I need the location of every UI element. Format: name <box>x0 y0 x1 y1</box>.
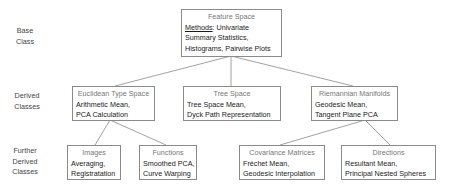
node-line: Arithmetic Mean, <box>76 100 151 111</box>
node-line: Dyck Path Representation <box>187 110 277 121</box>
node-functions: Functions Smoothed PCA, Curve Warping <box>139 145 197 180</box>
node-line: Averaging, <box>71 159 117 170</box>
node-line: Smoothed PCA, <box>143 159 193 170</box>
node-line: : Univariate <box>213 23 249 32</box>
node-title: Feature Space <box>185 12 278 23</box>
node-feature-space: Feature Space Methods: Univariate Summar… <box>181 9 282 57</box>
node-tree-space: Tree Space Tree Space Mean, Dyck Path Re… <box>183 86 281 121</box>
node-covariance-matrices: Covariance Matrices Fréchet Mean, Geodes… <box>239 145 325 180</box>
row-label-line: Further <box>2 146 48 157</box>
node-title: Euclidean Type Space <box>76 89 151 100</box>
node-riemannian-manifolds: Riemannian Manifolds Geodesic Mean, Tang… <box>311 86 398 121</box>
node-title: Functions <box>143 148 193 159</box>
edge-euclidean-to-images <box>95 120 110 145</box>
node-title: Images <box>71 148 117 159</box>
row-label-line: Base <box>2 26 48 37</box>
node-title: Tree Space <box>187 89 277 100</box>
node-line: Geodesic Interpolation <box>243 169 321 180</box>
node-line: Tangent Plane PCA <box>315 110 394 121</box>
node-title: Covariance Matrices <box>243 148 321 159</box>
node-line: Resultant Mean, <box>345 159 432 170</box>
node-line: PCA Calculation <box>76 110 151 121</box>
node-line: Curve Warping <box>143 169 193 180</box>
row-label-line: Derived <box>4 91 50 102</box>
node-line: Tree Space Mean, <box>187 100 277 111</box>
node-euclidean-type-space: Euclidean Type Space Arithmetic Mean, PC… <box>72 86 155 121</box>
node-methods-line: Methods: Univariate <box>185 23 278 34</box>
row-label-line: Class <box>2 37 48 48</box>
edge-riemannian-to-covariance <box>280 120 365 145</box>
edge-riemannian-to-directions <box>365 120 390 145</box>
node-title: Riemannian Manifolds <box>315 89 394 100</box>
edge-feature-to-euclidean <box>115 56 231 86</box>
node-title: Directions <box>345 148 432 159</box>
row-label-derived-classes: Derived Classes <box>4 91 50 112</box>
node-line: Principal Nested Spheres <box>345 169 432 180</box>
node-line: Histograms, Pairwise Plots <box>185 44 278 55</box>
node-line: Geodesic Mean, <box>315 100 394 111</box>
node-line: Registratation <box>71 169 117 180</box>
node-line: Fréchet Mean, <box>243 159 321 170</box>
row-label-line: Classes <box>4 102 50 113</box>
methods-label: Methods <box>185 23 213 32</box>
row-label-line: Classes <box>2 167 48 178</box>
node-line: Summary Statistics, <box>185 33 278 44</box>
row-label-further-derived-classes: Further Derived Classes <box>2 146 48 178</box>
node-directions: Directions Resultant Mean, Principal Nes… <box>341 145 436 180</box>
node-images: Images Averaging, Registratation <box>67 145 121 180</box>
edge-feature-to-riemannian <box>231 56 353 86</box>
row-label-line: Derived <box>2 157 48 168</box>
row-label-base-class: Base Class <box>2 26 48 47</box>
edge-euclidean-to-functions <box>110 120 166 145</box>
